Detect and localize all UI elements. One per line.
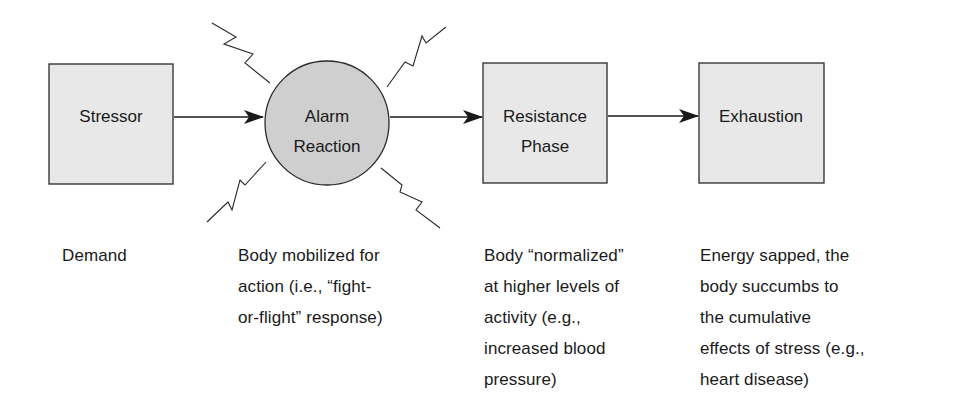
resistance-phase-node: Resistance Phase: [483, 63, 607, 183]
lightning-bolt-bottom-left-icon: [207, 162, 266, 222]
exhaustion-description: Energy sapped, the body succumbs to the …: [700, 240, 865, 395]
alarm-description: Body mobilized for action (i.e., “fight-…: [238, 240, 383, 333]
resistance-label-line1: Resistance: [503, 107, 587, 126]
exhaustion-node: Exhaustion: [699, 63, 824, 183]
alarm-label-line1: Alarm: [305, 107, 349, 126]
stressor-label: Stressor: [79, 107, 143, 126]
lightning-bolt-top-left-icon: [212, 23, 270, 83]
exhaustion-label: Exhaustion: [719, 107, 803, 126]
lightning-bolt-top-right-icon: [387, 27, 446, 87]
resistance-label-line2: Phase: [521, 137, 569, 156]
alarm-label-line2: Reaction: [293, 137, 360, 156]
stressor-node: Stressor: [49, 64, 173, 184]
resistance-description: Body “normalized” at higher levels of ac…: [484, 240, 624, 395]
lightning-bolt-bottom-right-icon: [381, 168, 440, 228]
stressor-description: Demand: [62, 240, 127, 271]
alarm-reaction-node: Alarm Reaction: [265, 61, 389, 185]
